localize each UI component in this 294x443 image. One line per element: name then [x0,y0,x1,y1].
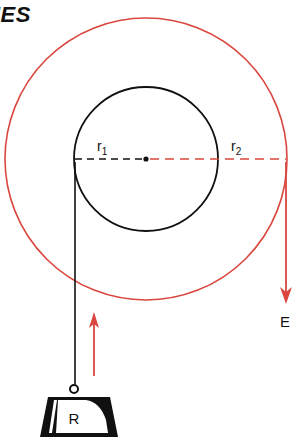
label-r2: r2 [231,138,242,157]
center-point [143,156,148,161]
weight-hook-ring [70,385,78,393]
label-r1: r1 [97,138,108,157]
resistance-weight: R [40,385,118,437]
wheel-and-axle-diagram: r1 r2 E R [0,0,294,443]
label-resistance: R [69,410,80,427]
label-effort: E [280,313,290,330]
